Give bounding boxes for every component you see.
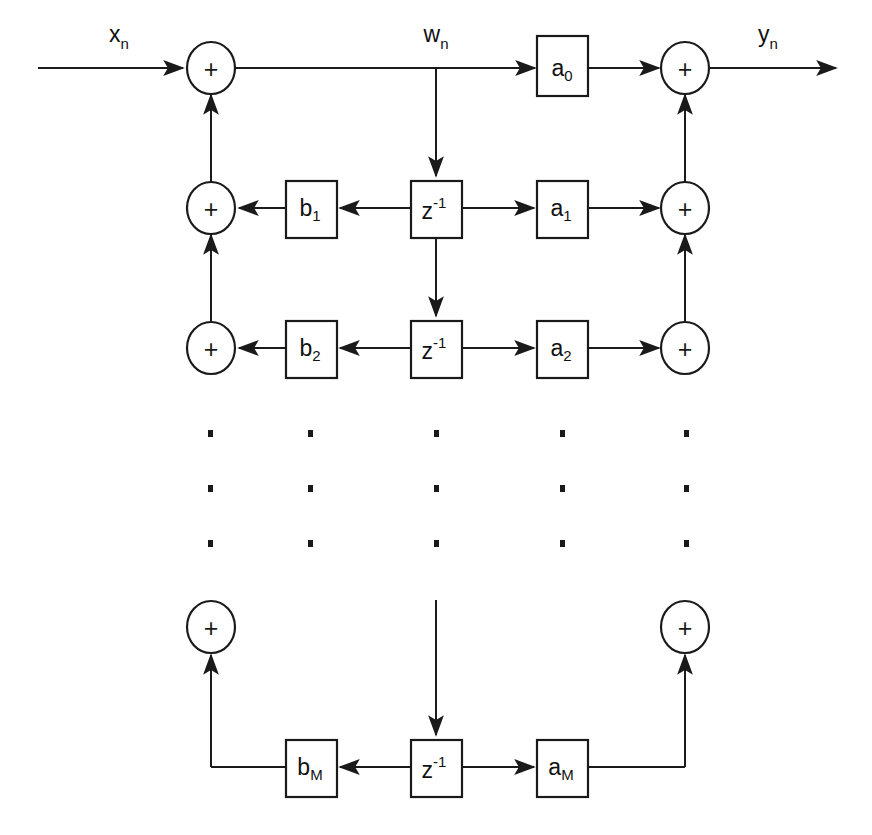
- label-yn-text: yn: [758, 21, 778, 52]
- ellipsis-dot: [208, 430, 213, 437]
- delay-block-1[interactable]: z-1: [411, 181, 462, 238]
- adder-node-b2[interactable]: +: [187, 322, 235, 374]
- ellipsis-column-right-sum: [684, 430, 689, 547]
- ellipsis-dot: [560, 430, 565, 437]
- adder-plus-glyph: +: [678, 614, 693, 642]
- adder-node-bM[interactable]: +: [187, 601, 235, 653]
- ellipsis-column-delay: [434, 430, 439, 547]
- ellipsis-dot: [434, 540, 439, 547]
- adder-node-output[interactable]: +: [661, 42, 709, 94]
- ellipsis-column-left-sum: [208, 430, 213, 547]
- ellipsis-dot: [560, 540, 565, 547]
- adder-plus-glyph: +: [678, 195, 693, 223]
- gain-block-aM[interactable]: aM: [537, 740, 588, 797]
- adder-plus-glyph: +: [204, 614, 219, 642]
- ellipsis-dot: [684, 485, 689, 492]
- adder-node-input[interactable]: +: [187, 42, 235, 94]
- adder-plus-glyph: +: [678, 335, 693, 363]
- ellipsis-dot: [560, 485, 565, 492]
- ellipsis-dot: [684, 540, 689, 547]
- adder-plus-glyph: +: [678, 55, 693, 83]
- iir-filter-diagram: + + + + + + + +: [0, 0, 872, 835]
- adder-plus-glyph: +: [204, 195, 219, 223]
- adder-plus-glyph: +: [204, 335, 219, 363]
- adder-node-a1[interactable]: +: [661, 182, 709, 234]
- ellipsis-dot: [208, 485, 213, 492]
- adder-plus-glyph: +: [204, 55, 219, 83]
- ellipsis-dot: [434, 430, 439, 437]
- ellipsis-column-a: [560, 430, 565, 547]
- gain-block-bM[interactable]: bM: [286, 740, 337, 797]
- signal-label-yn: yn: [758, 21, 778, 52]
- adder-node-aM[interactable]: +: [661, 601, 709, 653]
- gain-block-a0[interactable]: a0: [537, 36, 588, 96]
- ellipsis-dot: [434, 485, 439, 492]
- gain-block-b2[interactable]: b2: [286, 321, 337, 378]
- delay-block-M[interactable]: z-1: [411, 740, 462, 797]
- delay-block-2[interactable]: z-1: [411, 321, 462, 378]
- gain-block-a2[interactable]: a2: [537, 321, 588, 378]
- adder-node-a2[interactable]: +: [661, 322, 709, 374]
- signal-label-xn: xn: [109, 21, 129, 52]
- ellipsis-dot: [208, 540, 213, 547]
- adder-node-b1[interactable]: +: [187, 182, 235, 234]
- label-xn-text: xn: [109, 21, 129, 52]
- signal-label-wn: wn: [423, 21, 449, 52]
- ellipsis-column-b: [308, 430, 313, 547]
- ellipsis-dot: [308, 485, 313, 492]
- label-wn-text: wn: [423, 21, 449, 52]
- ellipsis-dot: [684, 430, 689, 437]
- gain-block-a1[interactable]: a1: [537, 181, 588, 238]
- gain-block-b1[interactable]: b1: [286, 181, 337, 238]
- ellipsis-dot: [308, 430, 313, 437]
- ellipsis-dot: [308, 540, 313, 547]
- signal-flow-canvas: + + + + + + + +: [0, 0, 872, 835]
